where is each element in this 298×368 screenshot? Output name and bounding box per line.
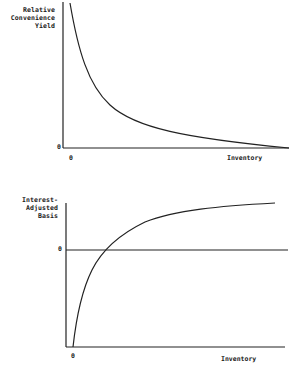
y-zero-tick: 0 — [57, 143, 61, 151]
y-axis-label: Interest- Adjusted Basis — [22, 196, 58, 220]
x-axis-label: Inventory — [221, 355, 256, 363]
convenience-yield-chart: Relative Convenience Yield 0 0 Inventory — [0, 0, 298, 180]
x-zero-tick: 0 — [69, 154, 73, 162]
y-axis-label: Relative Convenience Yield — [11, 6, 55, 30]
x-axis-label: Inventory — [227, 154, 262, 162]
interest-adjusted-basis-curve — [73, 203, 275, 347]
y-zero-tick: 0 — [58, 245, 62, 253]
interest-adjusted-basis-chart: Interest- Adjusted Basis 0 0 Inventory — [0, 180, 298, 368]
x-zero-tick: 0 — [71, 352, 75, 360]
convenience-yield-curve — [70, 3, 289, 148]
